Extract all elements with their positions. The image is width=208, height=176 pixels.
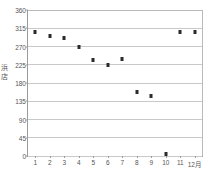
x-tick-label: 7: [120, 159, 124, 166]
gridline: [28, 119, 202, 120]
data-point: [34, 30, 37, 34]
y-tick-label: 360: [15, 7, 26, 14]
data-point: [92, 58, 95, 62]
data-point: [106, 63, 109, 67]
x-tick-label: 6: [106, 159, 110, 166]
y-axis-title: 浜 店: [0, 64, 9, 81]
x-tick-label: 12月: [188, 159, 202, 169]
x-tick-label: 4: [77, 159, 81, 166]
y-tick-label: 225: [15, 61, 26, 68]
y-tick-label: 135: [15, 98, 26, 105]
gridline: [28, 137, 202, 138]
data-point: [48, 34, 51, 38]
x-tick-label: 10: [162, 159, 169, 166]
x-tick-mark: [79, 156, 80, 158]
gridline: [28, 101, 202, 102]
y-tick-label: 90: [19, 116, 26, 123]
gridline: [28, 64, 202, 65]
data-point: [135, 90, 138, 94]
x-tick-mark: [151, 156, 152, 158]
y-tick-mark: [26, 28, 28, 29]
x-tick-mark: [35, 156, 36, 158]
x-tick-label: 5: [91, 159, 95, 166]
y-tick-mark: [26, 101, 28, 102]
data-point: [121, 57, 124, 61]
x-tick-mark: [64, 156, 65, 158]
x-tick-mark: [93, 156, 94, 158]
gridline: [28, 46, 202, 47]
y-tick-mark: [26, 137, 28, 138]
gridline: [28, 156, 202, 157]
x-tick-mark: [137, 156, 138, 158]
y-tick-label: 180: [15, 80, 26, 87]
y-tick-mark: [26, 83, 28, 84]
x-tick-label: 1: [33, 159, 37, 166]
y-tick-label: 0: [22, 153, 26, 160]
data-point: [150, 94, 153, 98]
x-tick-label: 11: [177, 159, 184, 166]
gridline: [28, 28, 202, 29]
data-point: [77, 45, 80, 49]
y-tick-mark: [26, 119, 28, 120]
x-tick-mark: [195, 156, 196, 158]
gridline: [28, 83, 202, 84]
plot-area: 04590135180225270315360123456789101112月: [27, 10, 203, 157]
x-tick-label: 2: [48, 159, 52, 166]
scatter-chart: 浜 店 045901351802252703153601234567891011…: [0, 0, 208, 176]
y-tick-label: 315: [15, 25, 26, 32]
x-tick-mark: [180, 156, 181, 158]
data-point: [193, 30, 196, 34]
y-tick-label: 45: [19, 134, 26, 141]
x-tick-mark: [108, 156, 109, 158]
y-tick-mark: [26, 46, 28, 47]
data-point: [179, 30, 182, 34]
x-tick-label: 8: [135, 159, 139, 166]
y-tick-mark: [26, 64, 28, 65]
x-tick-mark: [50, 156, 51, 158]
gridline: [28, 10, 202, 11]
y-tick-label: 270: [15, 43, 26, 50]
data-point: [164, 152, 167, 156]
y-tick-mark: [26, 10, 28, 11]
data-point: [63, 36, 66, 40]
x-tick-label: 9: [149, 159, 153, 166]
x-tick-label: 3: [62, 159, 66, 166]
x-tick-mark: [122, 156, 123, 158]
